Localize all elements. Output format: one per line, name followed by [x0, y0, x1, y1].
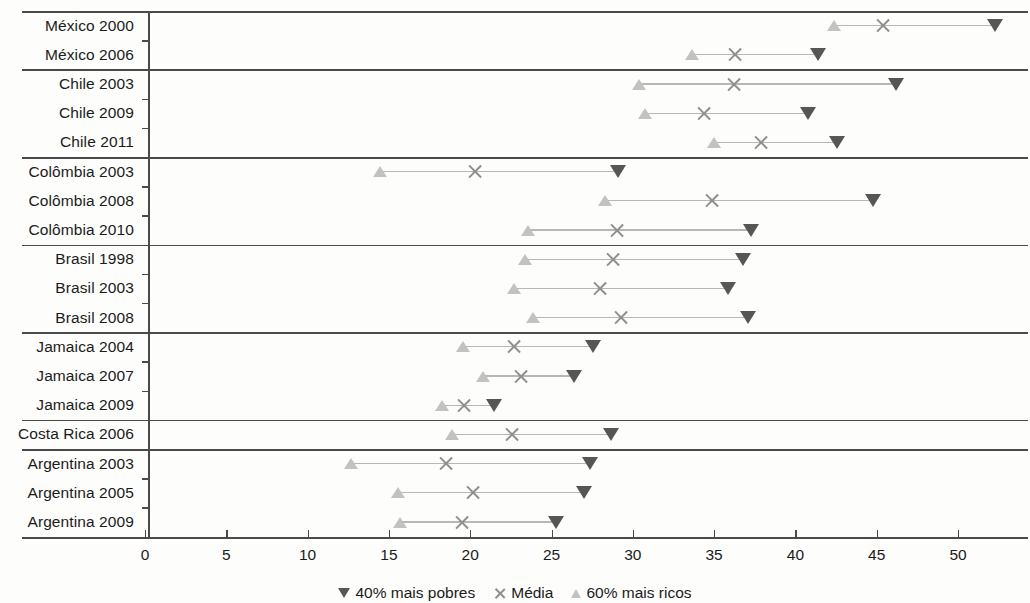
legend-label: 40% mais pobres [355, 584, 475, 601]
connector-line [714, 142, 838, 143]
x-cross-icon [493, 587, 506, 600]
group-separator [22, 69, 1028, 71]
marker-media [753, 134, 770, 151]
marker-media [437, 455, 454, 472]
marker-media [605, 251, 622, 268]
row-label-16: Argentina 2003 [0, 456, 134, 472]
marker-media [875, 17, 892, 34]
marker-poorest40 [548, 516, 564, 529]
row-label-13: Jamaica 2007 [0, 368, 134, 384]
row-tick [142, 128, 149, 129]
connector-line [452, 434, 611, 435]
group-separator [22, 449, 1028, 451]
x-tick [470, 530, 471, 537]
row-tick [142, 507, 149, 508]
marker-media [467, 163, 484, 180]
chart-legend: 40% mais pobresMédia60% mais ricos [0, 583, 1030, 602]
marker-richest60 [373, 166, 387, 177]
row-label-4: Chile 2009 [0, 105, 134, 121]
marker-poorest40 [585, 340, 601, 353]
marker-richest60 [344, 458, 358, 469]
row-label-11: Brasil 2008 [0, 310, 134, 326]
triangle-down-icon [338, 588, 350, 598]
x-tick-label-50: 50 [949, 547, 966, 563]
x-tick-label-35: 35 [705, 547, 722, 563]
marker-poorest40 [486, 399, 502, 412]
connector-line [464, 346, 594, 347]
marker-richest60 [526, 312, 540, 323]
row-label-10: Brasil 2003 [0, 280, 134, 296]
connector-line [693, 54, 818, 55]
connector-line [605, 200, 873, 201]
marker-richest60 [518, 254, 532, 265]
connector-line [352, 463, 591, 464]
row-label-5: Chile 2011 [0, 134, 134, 150]
x-tick [877, 530, 878, 537]
connector-line [834, 25, 995, 26]
marker-poorest40 [810, 48, 826, 61]
row-label-2: México 2006 [0, 47, 134, 63]
row-label-18: Argentina 2009 [0, 514, 134, 530]
marker-media [725, 76, 742, 93]
marker-poorest40 [987, 19, 1003, 32]
x-tick-label-45: 45 [868, 547, 885, 563]
connector-line [399, 492, 584, 493]
marker-media [727, 46, 744, 63]
x-tick-label-5: 5 [222, 547, 231, 563]
group-separator [22, 332, 1028, 334]
row-label-12: Jamaica 2004 [0, 339, 134, 355]
row-label-17: Argentina 2005 [0, 485, 134, 501]
marker-richest60 [685, 49, 699, 60]
group-separator [22, 245, 1028, 247]
x-tick-label-40: 40 [787, 547, 804, 563]
plot-area: México 2000México 2006Chile 2003Chile 20… [0, 0, 1030, 603]
row-tick [142, 478, 149, 479]
group-separator [22, 420, 1028, 422]
row-label-1: México 2000 [0, 18, 134, 34]
marker-media [455, 397, 472, 414]
row-label-3: Chile 2003 [0, 76, 134, 92]
marker-poorest40 [740, 311, 756, 324]
marker-richest60 [393, 517, 407, 528]
marker-poorest40 [888, 78, 904, 91]
x-tick [552, 530, 553, 537]
legend-item-1: 40% mais pobres [338, 583, 475, 602]
x-tick [308, 530, 309, 537]
marker-poorest40 [603, 428, 619, 441]
marker-media [506, 338, 523, 355]
x-tick-label-10: 10 [299, 547, 316, 563]
x-tick [795, 530, 796, 537]
legend-item-2: Média [493, 583, 553, 602]
marker-richest60 [445, 429, 459, 440]
marker-richest60 [632, 79, 646, 90]
legend-item-3: 60% mais ricos [571, 583, 691, 602]
connector-line [381, 171, 618, 172]
x-tick [389, 530, 390, 537]
x-tick [714, 530, 715, 537]
row-tick [142, 99, 149, 100]
connector-line [525, 259, 743, 260]
marker-media [465, 484, 482, 501]
row-label-14: Jamaica 2009 [0, 397, 134, 413]
marker-richest60 [707, 137, 721, 148]
connector-line [534, 317, 749, 318]
marker-poorest40 [576, 486, 592, 499]
marker-poorest40 [610, 165, 626, 178]
connector-line [514, 288, 729, 289]
row-tick [142, 303, 149, 304]
marker-richest60 [507, 283, 521, 294]
row-label-15: Costa Rica 2006 [0, 426, 134, 442]
marker-poorest40 [865, 194, 881, 207]
marker-poorest40 [800, 107, 816, 120]
x-tick [633, 530, 634, 537]
row-tick [142, 40, 149, 41]
connector-line [639, 83, 896, 84]
marker-poorest40 [720, 282, 736, 295]
marker-media [613, 309, 630, 326]
connector-line [529, 229, 752, 230]
marker-richest60 [598, 195, 612, 206]
row-tick [142, 361, 149, 362]
row-label-8: Colômbia 2010 [0, 222, 134, 238]
marker-media [704, 192, 721, 209]
marker-richest60 [521, 225, 535, 236]
